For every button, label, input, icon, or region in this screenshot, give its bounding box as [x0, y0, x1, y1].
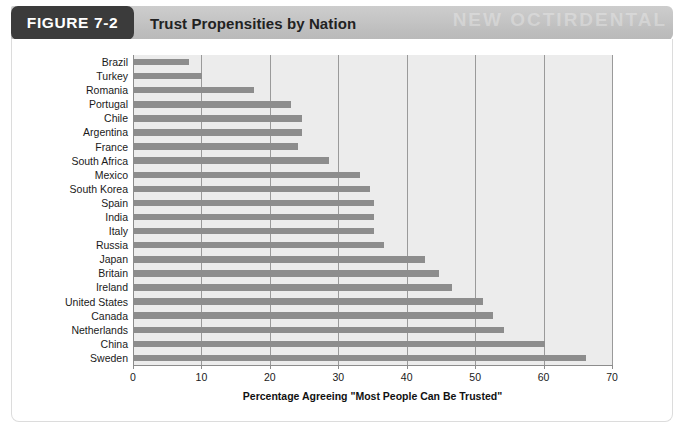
figure-container: NEW OCTIRDENTAL FIGURE 7-2 Trust Propens…	[0, 0, 679, 428]
figure-body-panel	[11, 39, 673, 422]
header-ghost-text: NEW OCTIRDENTAL	[453, 9, 667, 31]
figure-title: Trust Propensities by Nation	[150, 6, 356, 40]
figure-number-tag: FIGURE 7-2	[11, 6, 134, 40]
figure-number-label: FIGURE 7-2	[27, 14, 118, 32]
